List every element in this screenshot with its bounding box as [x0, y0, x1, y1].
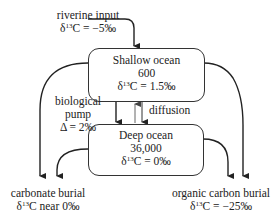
organic-burial-title: organic carbon burial — [166, 187, 276, 200]
biological-pump-line2: pump — [48, 108, 108, 121]
diffusion-label: diffusion — [149, 104, 190, 117]
deep-to-carbonate-arrow — [57, 149, 88, 176]
carbonate-burial-label: carbonate burial δ13C near 0‰ — [0, 187, 96, 213]
shallow-to-organic-arrow — [204, 63, 243, 176]
carbonate-burial-title: carbonate burial — [0, 187, 96, 200]
organic-burial-label: organic carbon burial δ13C = −25‰ — [166, 187, 276, 213]
shallow-ocean-box: Shallow ocean 600 δ13C = 1.5‰ — [88, 48, 205, 102]
deep-ocean-delta: δ13C = 0‰ — [89, 155, 203, 168]
shallow-ocean-title: Shallow ocean — [89, 54, 204, 67]
biological-pump-label: biological pump Δ = 2‰ — [48, 95, 108, 134]
shallow-ocean-size: 600 — [89, 67, 204, 80]
riverine-input-title: riverine input — [48, 9, 128, 22]
carbonate-burial-delta: δ13C near 0‰ — [0, 200, 96, 213]
biological-pump-line1: biological — [48, 95, 108, 108]
riverine-input-delta: δ13C = −5‰ — [48, 22, 128, 35]
deep-ocean-size: 36,000 — [89, 142, 203, 155]
shallow-ocean-delta: δ13C = 1.5‰ — [89, 80, 204, 93]
riverine-input-label: riverine input δ13C = −5‰ — [48, 9, 128, 35]
biological-pump-delta: Δ = 2‰ — [48, 121, 108, 134]
organic-burial-delta: δ13C = −25‰ — [166, 200, 276, 213]
deep-to-organic-arrow — [203, 139, 228, 176]
